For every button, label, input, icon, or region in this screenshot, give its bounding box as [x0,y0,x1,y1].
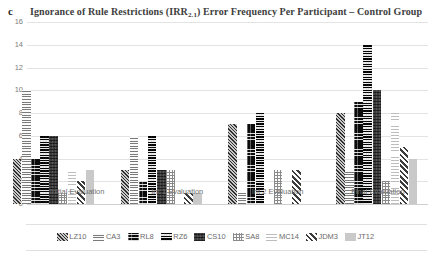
x-axis-label: Final Evaluation [328,183,428,201]
legend-swatch-icon [345,233,356,241]
legend-label: CS10 [207,233,226,241]
legend-item-lz10[interactable]: LZ10 [57,233,87,241]
x-axis-label: Int 2 Evaluation [228,183,328,201]
bar-group [323,22,431,204]
chart-title: Ignorance of Rule Restrictions (IRR2.1) … [30,6,428,18]
chart-title-suffix: ) Error Frequency Per Participant – Cont… [197,6,422,17]
legend-label: RZ6 [173,233,187,241]
legend-swatch-icon [128,233,139,241]
legend-label: MC14 [279,233,299,241]
legend-swatch-icon [266,233,277,241]
chart-title-subscript: 2.1 [188,11,197,19]
legend-label: LZ10 [69,233,86,241]
gridline [27,204,428,205]
legend-swatch-icon [57,233,68,241]
legend-swatch-icon [233,233,244,241]
legend-divider-bottom [26,250,427,251]
x-axis: Initial EvaluationInt 1 EvaluationInt 2 … [27,183,428,201]
chart-legend: LZ10CA3RL8RZ6CS10SA8MC14JDM3JT12 [0,228,431,246]
legend-label: JT12 [358,233,375,241]
legend-label: JDM3 [318,233,338,241]
chart-title-prefix: Ignorance of Rule Restrictions (IRR [30,6,188,17]
chart-figure: c Ignorance of Rule Restrictions (IRR2.1… [0,0,431,258]
bar-lz10-1 [13,159,22,205]
panel-letter: c [8,6,13,17]
x-axis-label: Int 1 Evaluation [127,183,227,201]
legend-item-jdm3[interactable]: JDM3 [306,233,338,241]
bar-group [216,22,324,204]
bar-group [108,22,216,204]
legend-swatch-icon [306,233,317,241]
legend-item-rl8[interactable]: RL8 [128,233,154,241]
legend-swatch-icon [194,233,205,241]
legend-item-jt12[interactable]: JT12 [345,233,374,241]
legend-item-mc14[interactable]: MC14 [266,233,299,241]
legend-label: RL8 [140,233,154,241]
legend-swatch-icon [161,233,172,241]
legend-label: SA8 [245,233,259,241]
bar-group [0,22,108,204]
bar-groups [0,22,431,204]
legend-label: CA3 [106,233,121,241]
legend-item-sa8[interactable]: SA8 [233,233,260,241]
legend-item-cs10[interactable]: CS10 [194,233,225,241]
legend-swatch-icon [93,233,104,241]
legend-divider-top [26,224,427,225]
x-axis-label: Initial Evaluation [27,183,127,201]
legend-item-rz6[interactable]: RZ6 [161,233,188,241]
legend-item-ca3[interactable]: CA3 [93,233,120,241]
bar-rz6-4 [363,45,372,204]
